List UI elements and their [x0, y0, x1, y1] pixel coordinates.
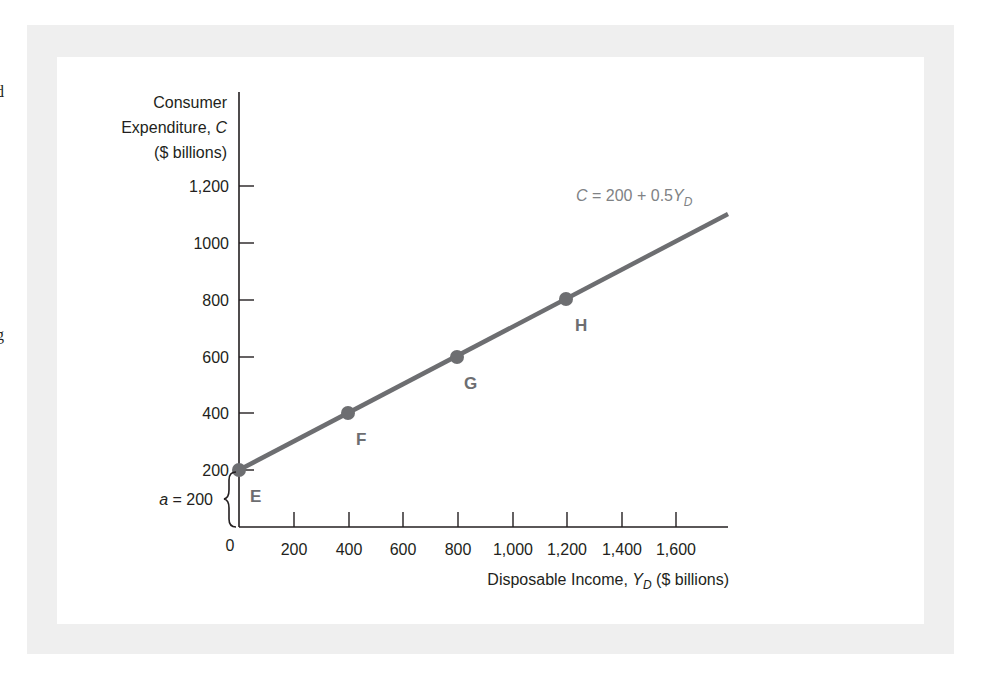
x-tick-label: 600 — [390, 541, 417, 558]
y-axis-title: Consumer Expenditure, C ($ billions) — [121, 94, 228, 161]
point-f-label: F — [356, 430, 366, 449]
svg-text:Expenditure, C: Expenditure, C — [121, 119, 227, 136]
point-h-marker — [559, 292, 573, 306]
x-tick-label: 400 — [336, 541, 363, 558]
point-e-marker — [232, 463, 246, 477]
consumption-function-line — [239, 214, 728, 470]
x-tick-label: 0 — [226, 537, 235, 554]
x-axis-title: Disposable Income, YD ($ billions) — [487, 571, 729, 592]
cropped-page-text: d — [0, 83, 4, 100]
y-tick-label: 800 — [202, 292, 229, 309]
x-ticks — [294, 512, 676, 527]
svg-text:($ billions): ($ billions) — [154, 144, 227, 161]
y-tick-label: 200 — [202, 462, 229, 479]
x-tick-label: 1,600 — [656, 541, 696, 558]
point-h-label: H — [575, 316, 587, 335]
x-tick-label: 800 — [445, 541, 472, 558]
point-e-label: E — [250, 487, 261, 506]
point-f-marker — [341, 406, 355, 420]
autonomous-consumption-label: a = 200 — [159, 491, 213, 508]
cropped-page-text: g — [0, 326, 4, 344]
point-g-label: G — [464, 374, 477, 393]
equation-label: C = 200 + 0.5YD — [576, 187, 693, 209]
y-tick-label: 1000 — [193, 235, 229, 252]
x-tick-label: 1,000 — [493, 541, 533, 558]
y-tick-label: 1,200 — [189, 178, 229, 195]
consumption-function-chart: 1,200 1000 800 600 400 200 0 200 400 600… — [0, 0, 984, 684]
point-g-marker — [450, 350, 464, 364]
y-tick-label: 400 — [202, 405, 229, 422]
y-tick-label: 600 — [202, 349, 229, 366]
x-tick-label: 1,400 — [602, 541, 642, 558]
autonomous-consumption-brace — [224, 472, 236, 527]
svg-text:Consumer: Consumer — [153, 94, 227, 111]
x-tick-label: 200 — [281, 541, 308, 558]
x-tick-label: 1,200 — [547, 541, 587, 558]
y-ticks — [239, 186, 254, 470]
